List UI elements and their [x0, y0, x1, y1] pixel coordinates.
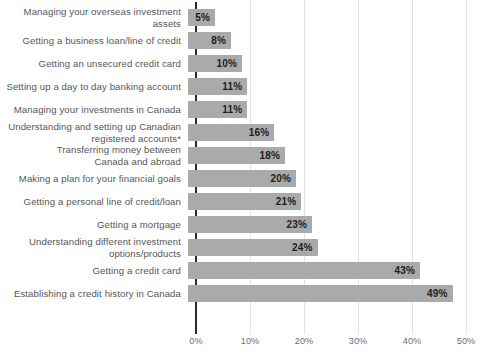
horizontal-bar-chart: Managing your overseas investment assets…: [0, 0, 481, 358]
bar-row[interactable]: Making a plan for your financial goals20…: [0, 167, 481, 190]
bar-row[interactable]: Getting a mortgage23%: [0, 213, 481, 236]
bar-row[interactable]: Getting a credit card43%: [0, 259, 481, 282]
bar-track: 49%: [188, 282, 481, 305]
bar[interactable]: 11%: [188, 78, 247, 95]
bar-row[interactable]: Managing your overseas investment assets…: [0, 6, 481, 29]
bar-value-label: 11%: [222, 81, 247, 92]
bar[interactable]: 8%: [188, 32, 231, 49]
x-tick-label: 40%: [403, 336, 421, 346]
bar[interactable]: 24%: [188, 239, 318, 256]
category-label: Getting a credit card: [0, 265, 188, 276]
bar-row[interactable]: Getting a personal line of credit/loan21…: [0, 190, 481, 213]
bar-value-label: 16%: [249, 127, 275, 138]
bar-value-label: 49%: [427, 288, 453, 299]
bar-rows: Managing your overseas investment assets…: [0, 0, 481, 334]
category-label: Establishing a credit history in Canada: [0, 288, 188, 299]
bar-row[interactable]: Setting up a day to day banking account1…: [0, 75, 481, 98]
bar-track: 24%: [188, 236, 481, 259]
bar-track: 10%: [188, 52, 481, 75]
x-tick-label: 50%: [457, 336, 475, 346]
bar-value-label: 20%: [270, 173, 296, 184]
bar-value-label: 43%: [395, 265, 421, 276]
x-tick-label: 0%: [189, 336, 202, 346]
category-label: Making a plan for your financial goals: [0, 173, 188, 184]
bar-value-label: 23%: [287, 219, 313, 230]
x-axis: 0%10%20%30%40%50%: [0, 336, 481, 358]
bar-value-label: 24%: [292, 242, 318, 253]
bar-row[interactable]: Understanding and setting up Canadian re…: [0, 121, 481, 144]
category-label: Managing your investments in Canada: [0, 104, 188, 115]
bar-track: 8%: [188, 29, 481, 52]
bar-track: 43%: [188, 259, 481, 282]
bar[interactable]: 10%: [188, 55, 242, 72]
bar-value-label: 21%: [276, 196, 302, 207]
bar-track: 5%: [188, 6, 481, 29]
bar-row[interactable]: Transferring money between Canada and ab…: [0, 144, 481, 167]
bar-row[interactable]: Getting an unsecured credit card10%: [0, 52, 481, 75]
bar-track: 23%: [188, 213, 481, 236]
bar-value-label: 8%: [211, 35, 231, 46]
bar-track: 20%: [188, 167, 481, 190]
bar-track: 21%: [188, 190, 481, 213]
bar[interactable]: 16%: [188, 124, 274, 141]
bar-value-label: 10%: [216, 58, 242, 69]
bar[interactable]: 11%: [188, 101, 247, 118]
bar-track: 11%: [188, 98, 481, 121]
bar[interactable]: 21%: [188, 193, 301, 210]
category-label: Getting an unsecured credit card: [0, 58, 188, 69]
category-label: Understanding and setting up Canadian re…: [0, 121, 188, 143]
bar-value-label: 18%: [260, 150, 286, 161]
category-label: Setting up a day to day banking account: [0, 81, 188, 92]
category-label: Managing your overseas investment assets: [0, 6, 188, 28]
category-label: Transferring money between Canada and ab…: [0, 144, 188, 166]
bar-track: 11%: [188, 75, 481, 98]
bar-value-label: 11%: [222, 104, 247, 115]
category-label: Getting a personal line of credit/loan: [0, 196, 188, 207]
bar-row[interactable]: Managing your investments in Canada11%: [0, 98, 481, 121]
x-tick-label: 20%: [295, 336, 313, 346]
bar[interactable]: 20%: [188, 170, 296, 187]
bar-value-label: 5%: [195, 12, 215, 23]
bar[interactable]: 18%: [188, 147, 285, 164]
x-tick-label: 30%: [349, 336, 367, 346]
bar-row[interactable]: Understanding different investment optio…: [0, 236, 481, 259]
bar[interactable]: 5%: [188, 9, 215, 26]
bar-row[interactable]: Getting a business loan/line of credit8%: [0, 29, 481, 52]
bar-track: 18%: [188, 144, 481, 167]
bar[interactable]: 23%: [188, 216, 312, 233]
category-label: Getting a business loan/line of credit: [0, 35, 188, 46]
bar[interactable]: 43%: [188, 262, 420, 279]
x-tick-label: 10%: [241, 336, 259, 346]
category-label: Understanding different investment optio…: [0, 236, 188, 258]
bar-row[interactable]: Establishing a credit history in Canada4…: [0, 282, 481, 305]
bar-track: 16%: [188, 121, 481, 144]
bar[interactable]: 49%: [188, 285, 453, 302]
category-label: Getting a mortgage: [0, 219, 188, 230]
